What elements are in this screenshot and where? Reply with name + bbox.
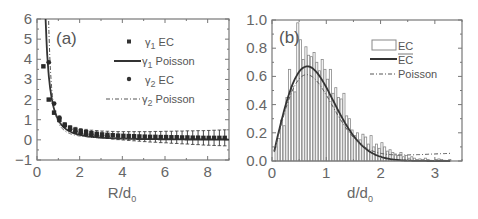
figure: 02468−10123456 (a) γ1 EC γ1 Poisson γ2 E… bbox=[0, 0, 478, 219]
y-tick-label: 4 bbox=[24, 50, 32, 67]
gamma1-ec-point bbox=[169, 135, 173, 139]
panel-a-label: (a) bbox=[56, 29, 77, 48]
histogram-bar bbox=[289, 69, 291, 161]
histogram-bar bbox=[343, 93, 345, 161]
histogram-bar bbox=[283, 126, 285, 161]
histogram-bar bbox=[299, 40, 301, 161]
y-tick-label: −1 bbox=[15, 151, 32, 168]
legend-label-gamma2-poisson: γ2 Poisson bbox=[142, 93, 195, 108]
x-tick-label: 0 bbox=[268, 164, 276, 181]
panel-b-legend: EC EC Poisson bbox=[370, 40, 437, 80]
x-tick-label: 3 bbox=[431, 164, 439, 181]
y-tick-label: 0.8 bbox=[246, 39, 267, 56]
panel-b-histogram-bars bbox=[275, 23, 451, 161]
legend-label-gamma1-poisson: γ1 Poisson bbox=[142, 55, 195, 70]
legend-marker-circle-icon bbox=[127, 77, 131, 81]
histogram-bar bbox=[375, 144, 377, 161]
histogram-bar bbox=[321, 59, 323, 161]
gamma1-ec-point bbox=[127, 134, 131, 138]
y-tick-label: 0.2 bbox=[246, 124, 267, 141]
y-tick-label: 0.4 bbox=[246, 96, 267, 113]
histogram-bar bbox=[329, 69, 331, 161]
gamma1-ec-point bbox=[47, 97, 51, 101]
histogram-bar bbox=[378, 148, 380, 161]
y-tick-label: 2 bbox=[24, 91, 32, 108]
gamma1-ec-point bbox=[159, 135, 163, 139]
histogram-bar bbox=[278, 138, 280, 161]
panel-b-label: (b) bbox=[279, 28, 300, 47]
gamma2-ec-point bbox=[105, 134, 110, 139]
histogram-bar bbox=[305, 47, 307, 161]
gamma1-ec-point bbox=[175, 135, 179, 139]
gamma2-ec-point bbox=[68, 127, 73, 132]
x-tick-label: 1 bbox=[322, 164, 330, 181]
gamma1-ec-point bbox=[121, 134, 125, 138]
gamma2-ec-point bbox=[78, 131, 83, 136]
legend-label-gamma1-ec: γ1 EC bbox=[145, 36, 174, 51]
legend-marker-square-icon bbox=[127, 40, 131, 44]
panel-b-chart: 01230.00.20.40.60.81.0 (b) EC EC Poisson… bbox=[246, 11, 462, 204]
histogram-bar bbox=[310, 57, 312, 161]
gamma2-ec-point bbox=[94, 133, 99, 138]
legend-label-ec-mean: EC bbox=[398, 54, 413, 66]
gamma1-ec-point bbox=[191, 135, 195, 139]
x-tick-label: 6 bbox=[161, 163, 169, 180]
gamma1-ec-point bbox=[201, 136, 205, 140]
x-tick-label: 0 bbox=[33, 163, 41, 180]
y-tick-label: 0.6 bbox=[246, 67, 267, 84]
gamma2-ec-point bbox=[100, 133, 105, 138]
gamma2-ec-point bbox=[62, 123, 67, 128]
gamma2-ec-point bbox=[46, 60, 51, 65]
gamma1-ec-point bbox=[132, 134, 136, 138]
histogram-bar bbox=[316, 62, 318, 161]
gamma2-ec-point bbox=[73, 129, 78, 134]
gamma1-ec-point bbox=[164, 135, 168, 139]
histogram-bar bbox=[367, 144, 369, 161]
histogram-bar bbox=[291, 86, 293, 161]
gamma2-ec-point bbox=[84, 132, 89, 137]
histogram-bar bbox=[337, 98, 339, 161]
gamma1-ec-point bbox=[116, 133, 120, 137]
gamma1-ec-point bbox=[148, 135, 152, 139]
x-tick-label: 4 bbox=[118, 163, 126, 180]
gamma1-ec-point bbox=[223, 136, 227, 140]
panel-a-chart: 02468−10123456 (a) γ1 EC γ1 Poisson γ2 E… bbox=[15, 10, 229, 204]
histogram-bar bbox=[308, 55, 310, 161]
histogram-bar bbox=[340, 99, 342, 161]
gamma1-ec-point bbox=[185, 135, 189, 139]
gamma1-ec-point bbox=[143, 134, 147, 138]
panel-b-x-axis-label: d/d0 bbox=[347, 184, 373, 204]
x-tick-label: 2 bbox=[75, 163, 83, 180]
gamma2-ec-point bbox=[89, 133, 94, 138]
histogram-bar bbox=[370, 136, 372, 161]
gamma1-ec-point bbox=[52, 110, 56, 114]
panel-a-x-axis-label: R/d0 bbox=[108, 184, 136, 204]
histogram-bar bbox=[356, 133, 358, 161]
panel-a-legend: γ1 EC γ1 Poisson γ2 EC γ2 Poisson bbox=[106, 36, 195, 108]
gamma1-ec-point bbox=[137, 134, 141, 138]
gamma1-ec-point bbox=[207, 136, 211, 140]
gamma1-ec-point bbox=[212, 136, 216, 140]
x-tick-label: 2 bbox=[376, 164, 384, 181]
gamma1-ec-point bbox=[217, 136, 221, 140]
legend-label-gamma2-ec: γ2 EC bbox=[145, 74, 174, 89]
y-tick-label: 0 bbox=[24, 131, 32, 148]
gamma1-ec-point bbox=[41, 64, 45, 68]
histogram-bar bbox=[348, 119, 350, 161]
gamma2-ec-point bbox=[57, 115, 62, 120]
gamma1-ec-point bbox=[196, 135, 200, 139]
legend-label-poisson: Poisson bbox=[398, 68, 437, 80]
y-tick-label: 0.0 bbox=[246, 152, 267, 169]
y-tick-label: 5 bbox=[24, 30, 32, 47]
gamma1-ec-point bbox=[180, 135, 184, 139]
x-tick-label: 8 bbox=[203, 163, 211, 180]
legend-open-bar-icon bbox=[372, 40, 396, 50]
y-tick-label: 1 bbox=[24, 111, 32, 128]
y-tick-label: 6 bbox=[24, 10, 32, 27]
legend-label-ec: EC bbox=[398, 40, 413, 52]
gamma1-ec-point bbox=[153, 135, 157, 139]
gamma2-ec-point bbox=[52, 101, 57, 106]
histogram-bar bbox=[294, 92, 296, 161]
histogram-bar bbox=[335, 88, 337, 161]
y-tick-label: 3 bbox=[24, 70, 32, 87]
